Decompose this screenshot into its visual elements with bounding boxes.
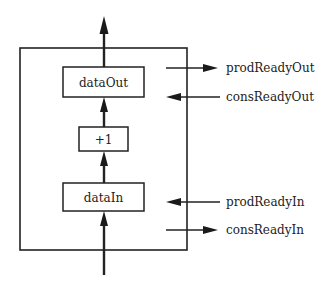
block-datain: dataIn [63, 183, 144, 211]
signal-consreadyin-label: consReadyIn [226, 223, 304, 237]
block-dataout-label: dataOut [79, 76, 128, 90]
signal-consreadyout: consReadyOut [166, 90, 314, 104]
signal-prodreadyin-label: prodReadyIn [226, 195, 305, 209]
plus-one-to-dataout-arrowhead-icon [100, 97, 108, 112]
output-arrowhead-icon [100, 16, 109, 34]
block-plus-one-label: +1 [95, 133, 113, 147]
signal-consreadyout-label: consReadyOut [226, 90, 314, 104]
block-datain-label: dataIn [84, 191, 124, 205]
handshake-module-diagram: dataOut +1 dataIn prodReadyOut consReady… [0, 0, 327, 286]
arrow-right-icon [203, 226, 218, 234]
arrow-right-icon [203, 64, 218, 72]
datain-to-plus-one-arrowhead-icon [100, 151, 108, 166]
signal-prodreadyout: prodReadyOut [166, 61, 315, 75]
arrow-left-icon [166, 93, 181, 101]
block-plus-one: +1 [79, 127, 128, 151]
input-arrowhead-icon [100, 211, 108, 226]
signal-prodreadyout-label: prodReadyOut [226, 61, 315, 75]
block-dataout: dataOut [63, 67, 144, 97]
arrow-left-icon [166, 198, 181, 206]
